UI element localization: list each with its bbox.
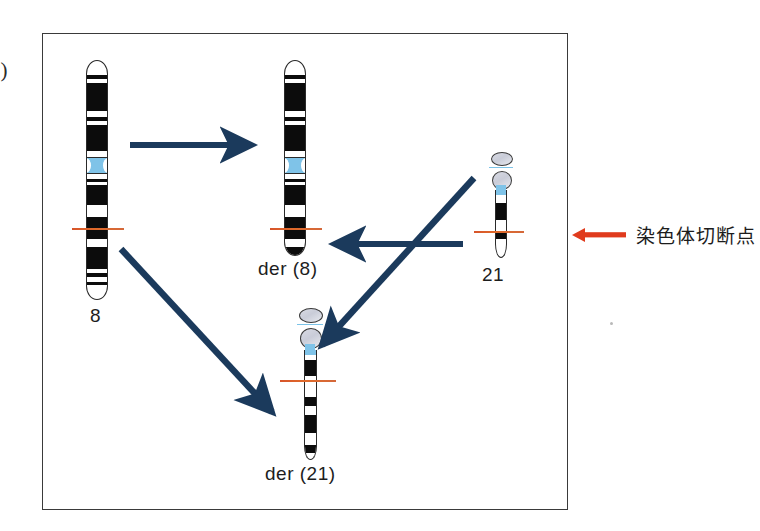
band (304, 397, 317, 406)
band (284, 83, 306, 111)
chromosome-der21 (292, 308, 326, 463)
band (284, 185, 306, 205)
centromere-fill (495, 190, 507, 195)
band (284, 125, 306, 151)
chromosome-der8-label: der (8) (258, 258, 317, 280)
band (284, 247, 306, 256)
band (304, 415, 317, 433)
chromosome-8-label: 8 (90, 305, 101, 327)
centromere-fill (304, 350, 317, 355)
chromosome-der21-label: der (21) (265, 463, 336, 485)
legend-label: 染色体切断点 (636, 221, 756, 248)
satellite (299, 308, 323, 323)
breakpoint-line-chr21 (474, 231, 524, 233)
stalk (297, 324, 323, 325)
band (86, 273, 108, 277)
band (86, 117, 108, 121)
legend-breakpoint: 染色体切断点 (572, 221, 756, 248)
band (86, 247, 108, 269)
band (495, 232, 507, 239)
band (284, 179, 306, 182)
chromosome-der8-body (284, 60, 306, 256)
chromosome-der21-body (304, 350, 317, 460)
stalk (489, 167, 513, 168)
centromere (284, 157, 306, 174)
chromosome-8-body (86, 60, 108, 300)
breakpoint-line-chr8 (72, 228, 124, 230)
band (284, 117, 306, 121)
band (86, 75, 108, 79)
band (86, 282, 108, 285)
satellite (491, 152, 513, 166)
red-left-arrow-icon (572, 225, 626, 245)
band (304, 360, 317, 376)
breakpoint-line-der8 (270, 228, 322, 230)
chromosome-21 (486, 152, 516, 264)
chromosome-der8 (284, 60, 306, 256)
band (495, 203, 507, 220)
chromosome-21-body (495, 190, 507, 258)
band (86, 83, 108, 111)
figure-canvas: 2) 8 (0, 0, 760, 531)
centromere (86, 157, 108, 174)
band (284, 75, 306, 79)
breakpoint-line-der21 (280, 380, 336, 382)
band (86, 125, 108, 151)
band (86, 185, 108, 205)
scan-speck (610, 322, 613, 325)
panel-number: 2) (0, 58, 8, 83)
band (304, 445, 317, 453)
chromosome-8 (86, 60, 108, 300)
chromosome-21-label: 21 (482, 264, 504, 286)
band (86, 179, 108, 182)
